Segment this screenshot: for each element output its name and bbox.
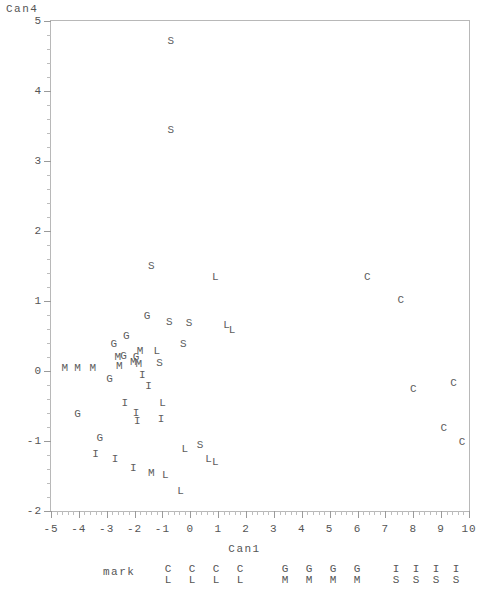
x-tick-minor: [424, 511, 425, 515]
x-tick-minor: [179, 511, 180, 515]
legend-entry: CL: [189, 564, 196, 586]
data-point-L: L: [212, 271, 219, 282]
x-tick-minor: [268, 511, 269, 515]
x-tick-minor: [224, 511, 225, 515]
y-tick-major: [44, 301, 51, 302]
x-tick-major: [358, 511, 359, 518]
legend-entry: GM: [354, 564, 361, 586]
y-tick-label: 4: [34, 85, 42, 97]
x-tick-minor: [90, 511, 91, 515]
x-tick-minor: [291, 511, 292, 515]
legend-entry-bottom: L: [189, 575, 196, 586]
data-point-G: G: [96, 432, 103, 443]
x-tick-label: -4: [71, 523, 86, 535]
x-tick-label: -2: [127, 523, 142, 535]
data-point-M: M: [115, 352, 122, 363]
x-tick-minor: [452, 511, 453, 515]
x-tick-minor: [280, 511, 281, 515]
x-tick-minor: [174, 511, 175, 515]
x-tick-minor: [201, 511, 202, 515]
x-tick-minor: [140, 511, 141, 515]
x-tick-minor: [235, 511, 236, 515]
x-tick-label: -3: [99, 523, 114, 535]
legend-entry-bottom: L: [213, 575, 220, 586]
data-point-M: M: [89, 362, 96, 373]
y-axis-title: Can4: [6, 3, 38, 15]
x-tick-minor: [240, 511, 241, 515]
x-tick-minor: [352, 511, 353, 515]
x-tick-label: 6: [354, 523, 362, 535]
x-axis-title: Can1: [0, 543, 489, 555]
x-tick-minor: [335, 511, 336, 515]
y-tick-major: [44, 231, 51, 232]
y-tick-major: [44, 21, 51, 22]
legend-entry: IS: [393, 564, 400, 586]
x-tick-major: [385, 511, 386, 518]
x-tick-label: 10: [461, 523, 476, 535]
data-point-L: L: [154, 346, 161, 357]
legend-entry-bottom: L: [237, 575, 244, 586]
data-point-I: I: [130, 462, 137, 473]
data-point-I: I: [112, 453, 119, 464]
data-point-C: C: [410, 383, 417, 394]
data-point-L: L: [162, 469, 169, 480]
x-tick-major: [441, 511, 442, 518]
data-point-L: L: [212, 457, 219, 468]
x-tick-minor: [397, 511, 398, 515]
legend-entry: GM: [306, 564, 313, 586]
x-tick-minor: [252, 511, 253, 515]
data-point-C: C: [397, 294, 404, 305]
x-tick-major: [51, 511, 52, 518]
data-point-I: I: [134, 416, 141, 427]
legend-title: mark: [103, 566, 135, 578]
x-tick-major: [218, 511, 219, 518]
x-tick-label: 5: [326, 523, 334, 535]
x-tick-minor: [263, 511, 264, 515]
legend-entry-bottom: M: [330, 575, 337, 586]
x-tick-minor: [73, 511, 74, 515]
legend-entry-bottom: M: [354, 575, 361, 586]
x-tick-major: [79, 511, 80, 518]
x-tick-minor: [374, 511, 375, 515]
data-point-G: G: [110, 339, 117, 350]
x-tick-minor: [419, 511, 420, 515]
x-tick-label: 7: [382, 523, 390, 535]
x-tick-minor: [257, 511, 258, 515]
data-point-S: S: [148, 261, 155, 272]
x-tick-label: 4: [298, 523, 306, 535]
x-tick-minor: [62, 511, 63, 515]
data-point-L: L: [229, 325, 236, 336]
x-tick-minor: [129, 511, 130, 515]
x-tick-minor: [341, 511, 342, 515]
data-point-G: G: [106, 374, 113, 385]
x-tick-minor: [307, 511, 308, 515]
y-tick-major: [44, 161, 51, 162]
x-tick-minor: [408, 511, 409, 515]
data-point-I: I: [92, 448, 99, 459]
data-point-S: S: [186, 318, 193, 329]
data-point-C: C: [459, 437, 466, 448]
legend: mark CLCLCLCLGMGMGMGMISISISIS: [0, 563, 489, 591]
x-tick-minor: [313, 511, 314, 515]
legend-entry-bottom: S: [413, 575, 420, 586]
y-tick-label: -2: [27, 505, 42, 517]
data-point-S: S: [197, 439, 204, 450]
data-point-L: L: [181, 444, 188, 455]
data-point-C: C: [441, 423, 448, 434]
x-tick-major: [469, 511, 470, 518]
data-point-C: C: [364, 271, 371, 282]
x-tick-minor: [185, 511, 186, 515]
data-point-S: S: [168, 35, 175, 46]
x-tick-minor: [436, 511, 437, 515]
x-tick-label: 3: [270, 523, 278, 535]
y-tick-major: [44, 441, 51, 442]
x-tick-minor: [84, 511, 85, 515]
x-tick-major: [274, 511, 275, 518]
legend-entry: CL: [165, 564, 172, 586]
x-tick-minor: [207, 511, 208, 515]
x-tick-major: [246, 511, 247, 518]
legend-entry-bottom: S: [393, 575, 400, 586]
data-point-G: G: [123, 331, 130, 342]
x-tick-minor: [391, 511, 392, 515]
legend-entry-bottom: M: [282, 575, 289, 586]
